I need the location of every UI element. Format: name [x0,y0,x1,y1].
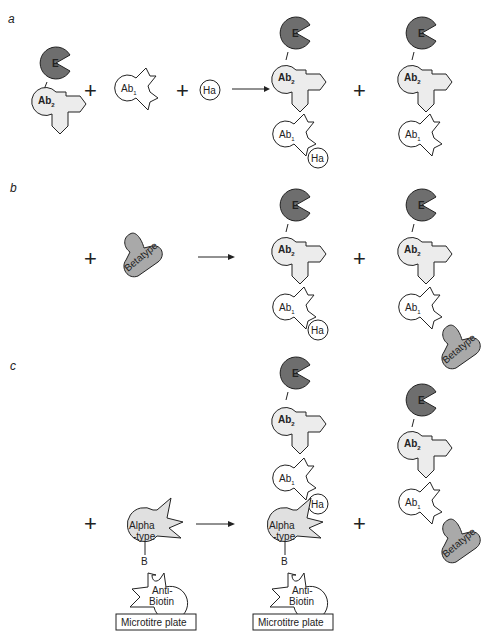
enzyme-label: E [418,200,425,211]
complex-e-ab2-ab1-ha: E Ab2 Ab1 Ha [272,189,328,340]
biotin-label: B [281,556,288,567]
plus-sign: + [176,78,189,103]
hapten-label: Ha [203,85,216,96]
enzyme-label: E [52,58,59,69]
plus-sign: + [84,511,97,536]
antibiotin-label-line2: Biotin [149,596,174,607]
panel-label-a: a [8,12,15,26]
enzyme-label: E [292,28,299,39]
panel-label-b: b [10,181,17,195]
enzyme-label: E [418,28,425,39]
complex-e-ab2-ab1: E Ab2 Ab1 [398,17,452,156]
enzyme-label: E [292,368,299,379]
plus-sign: + [84,246,97,271]
complex-e-ab2-ab1-betatype: E Ab2 Ab1 Betatype [398,384,481,563]
hapten-label: Ha [311,153,324,164]
plus-sign: + [353,78,366,103]
alphatype-label-line2: -type [133,531,156,542]
hapten-free: Ha [200,80,220,100]
betatype-free: Betatype [122,233,162,277]
antibiotin-label-line1: Anti- [292,585,313,596]
complex-e-ab2-ab1-ha: E Ab2 Ab1 Ha [272,17,328,168]
immunoassay-diagram: a E Ab2 + Ab1 + Ha E Ab2 Ab1 Ha + E [0,0,493,636]
reaction-arrow [198,254,235,260]
reaction-arrow [232,86,270,92]
plus-sign: + [84,78,97,103]
enzyme-label: E [418,395,425,406]
antibiotin-label-line2: Biotin [289,596,314,607]
plus-sign: + [353,511,366,536]
alphatype-label-line2: -type [273,531,296,542]
alphatype-on-plate: Alpha -type B Anti- Biotin Microtitre pl… [116,498,196,630]
panel-label-c: c [10,359,16,373]
hapten-label: Ha [311,499,324,510]
complex-full-sandwich-on-plate: E Ab2 Ab1 Ha Alpha -type B Anti- Biotin … [253,357,333,630]
alphatype-label-line1: Alpha [129,520,155,531]
plate-label: Microtitre plate [258,617,324,628]
enzyme-label: E [292,200,299,211]
alphatype-label-line1: Alpha [269,520,295,531]
complex-e-ab2-ab1-betatype: E Ab2 Ab1 Betatype [398,189,481,369]
reaction-arrow [196,521,235,527]
antibiotin-label-line1: Anti- [152,585,173,596]
plus-sign: + [353,246,366,271]
ab1-free: Ab1 [115,68,158,110]
enzyme-ab2-conjugate: E Ab2 [32,47,86,134]
biotin-label: B [141,556,148,567]
plate-label: Microtitre plate [121,617,187,628]
hapten-label: Ha [311,325,324,336]
